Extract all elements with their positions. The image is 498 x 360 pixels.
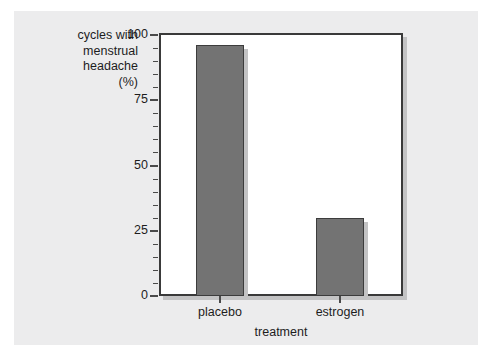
y-axis-minor-tick	[153, 179, 158, 180]
y-axis-tick-label: 25	[108, 224, 148, 236]
y-axis-tick-label: 75	[108, 93, 148, 105]
y-axis-minor-tick	[153, 257, 158, 258]
x-axis-tick-label-placebo: placebo	[175, 305, 265, 319]
y-axis-minor-tick	[153, 270, 158, 271]
y-axis-minor-tick	[153, 205, 158, 206]
bar-placebo[interactable]	[196, 45, 244, 296]
y-axis-minor-tick	[153, 61, 158, 62]
y-axis-minor-tick	[153, 192, 158, 193]
y-axis-minor-tick	[153, 139, 158, 140]
x-axis-tick-label-estrogen: estrogen	[295, 305, 385, 319]
y-axis-minor-tick	[153, 218, 158, 219]
y-axis-tick-label: 50	[108, 159, 148, 171]
x-axis-title: treatment	[159, 325, 403, 339]
y-axis-major-tick	[150, 165, 158, 167]
y-axis-minor-tick	[153, 283, 158, 284]
bar-estrogen[interactable]	[316, 218, 364, 296]
chart-figure: cycles with menstrual headache (%) 02550…	[0, 0, 498, 360]
x-axis-tick	[219, 296, 221, 303]
y-axis-major-tick	[150, 99, 158, 101]
y-axis-minor-tick	[153, 48, 158, 49]
y-axis-minor-tick	[153, 152, 158, 153]
y-axis-tick-label: 100	[108, 28, 148, 40]
y-axis-major-tick	[150, 230, 158, 232]
y-axis-major-tick	[150, 34, 158, 36]
y-axis-tick-label: 0	[108, 289, 148, 301]
y-axis-minor-tick	[153, 244, 158, 245]
y-axis-minor-tick	[153, 87, 158, 88]
x-axis-tick	[339, 296, 341, 303]
y-axis-minor-tick	[153, 113, 158, 114]
y-axis-tick-labels: 0255075100	[104, 0, 148, 360]
y-axis-minor-tick	[153, 126, 158, 127]
y-axis-major-tick	[150, 295, 158, 297]
y-axis-minor-tick	[153, 74, 158, 75]
